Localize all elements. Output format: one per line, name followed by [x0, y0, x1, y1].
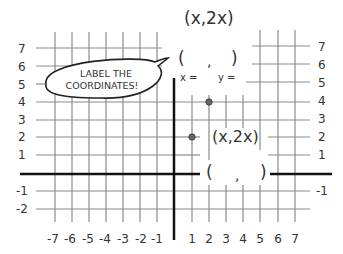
svg-text:3: 3	[222, 232, 230, 246]
svg-text:-1: -1	[151, 232, 163, 246]
svg-text:1: 1	[188, 232, 196, 246]
bottom-blank-comma: ,	[235, 167, 239, 183]
svg-text:-2: -2	[135, 232, 147, 246]
svg-text:-1: -1	[16, 184, 28, 198]
bottom-formula: (x,2x)	[212, 127, 259, 146]
svg-text:5: 5	[318, 76, 326, 90]
svg-text:5: 5	[256, 232, 264, 246]
point-2-4[interactable]	[206, 99, 212, 105]
bottom-blank-open: (	[206, 162, 213, 182]
bottom-blank-close: )	[260, 162, 267, 182]
svg-text:3: 3	[18, 113, 26, 127]
svg-text:6: 6	[318, 58, 326, 72]
svg-text:2: 2	[205, 232, 213, 246]
top-formula: (x,2x)	[184, 8, 234, 28]
svg-text:-1: -1	[316, 184, 328, 198]
svg-text:3: 3	[318, 112, 326, 126]
top-blank-close: )	[231, 48, 238, 68]
svg-text:7: 7	[291, 232, 299, 246]
svg-text:-6: -6	[64, 232, 76, 246]
svg-text:1: 1	[318, 148, 326, 162]
svg-text:4: 4	[318, 94, 326, 108]
svg-text:2: 2	[318, 130, 326, 144]
svg-text:7: 7	[318, 40, 326, 54]
coordinate-grid: LABEL THE COORDINATES! (x,2x) ( , ) x = …	[0, 0, 343, 254]
point-1-2[interactable]	[189, 134, 195, 140]
svg-text:6: 6	[274, 232, 282, 246]
svg-text:-2: -2	[16, 202, 28, 216]
top-blank-comma: ,	[207, 53, 211, 69]
y-ticks-left: 7 6 5 4 3 2 1 -1 -2	[16, 42, 28, 216]
svg-text:-4: -4	[99, 232, 111, 246]
svg-text:7: 7	[18, 42, 26, 56]
bubble-line-1: LABEL THE	[80, 68, 132, 79]
svg-text:4: 4	[18, 95, 26, 109]
svg-text:-7: -7	[47, 232, 59, 246]
svg-text:4: 4	[239, 232, 247, 246]
svg-text:1: 1	[18, 148, 26, 162]
svg-text:-5: -5	[82, 232, 94, 246]
top-blank-open: (	[178, 48, 185, 68]
svg-text:2: 2	[18, 130, 26, 144]
svg-text:-3: -3	[117, 232, 129, 246]
svg-text:6: 6	[18, 60, 26, 74]
bubble-line-2: COORDINATES!	[66, 80, 139, 91]
y-equals-label: y =	[218, 72, 235, 83]
x-equals-label: x =	[180, 72, 197, 83]
svg-text:5: 5	[18, 78, 26, 92]
